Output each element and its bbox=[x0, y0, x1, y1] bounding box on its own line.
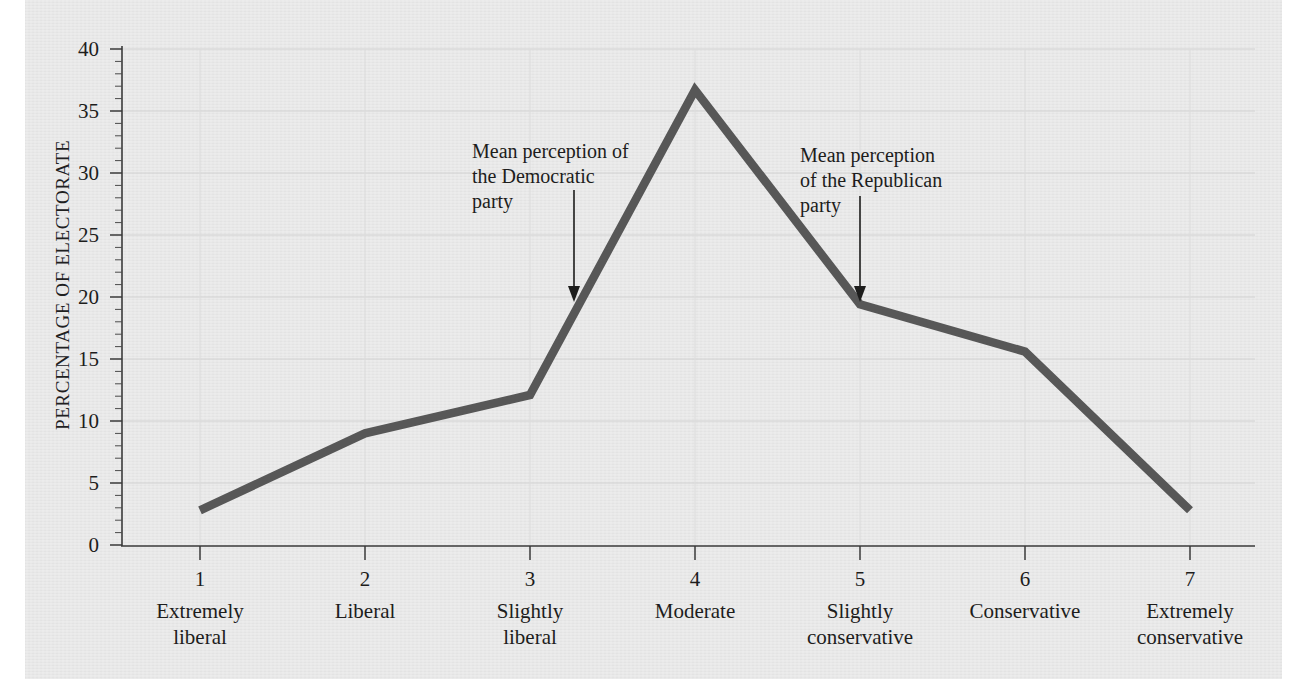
x-tick-number: 5 bbox=[775, 567, 945, 592]
x-tick-name-line1: Extremely bbox=[1095, 598, 1285, 624]
annotation-republican-line1: Mean perception bbox=[800, 143, 1015, 168]
x-tick-name-line2: conservative bbox=[765, 624, 955, 650]
y-tick-label: 30 bbox=[57, 161, 99, 186]
annotation-democratic: Mean perception of the Democratic party bbox=[472, 139, 687, 214]
y-tick-label: 25 bbox=[57, 223, 99, 248]
y-tick-label: 0 bbox=[57, 533, 99, 558]
x-axis-ticks bbox=[200, 546, 1190, 560]
x-tick-number: 2 bbox=[280, 567, 450, 592]
y-tick-label: 35 bbox=[57, 99, 99, 124]
gridlines bbox=[122, 49, 1255, 483]
x-tick-name-line1: Slightly bbox=[765, 598, 955, 624]
x-tick-name: Extremely conservative bbox=[1095, 598, 1285, 650]
x-tick-name-line1: Liberal bbox=[270, 598, 460, 624]
x-tick-name-line2: liberal bbox=[435, 624, 625, 650]
x-tick-name-line1: Moderate bbox=[600, 598, 790, 624]
x-tick-number: 4 bbox=[610, 567, 780, 592]
x-tick-number: 1 bbox=[115, 567, 285, 592]
annotation-republican-line2: of the Republican bbox=[800, 168, 1015, 193]
x-tick-name-line1: Conservative bbox=[930, 598, 1120, 624]
x-tick-number: 3 bbox=[445, 567, 615, 592]
x-tick-name-line2: conservative bbox=[1095, 624, 1285, 650]
annotation-democratic-line2: the Democratic bbox=[472, 164, 687, 189]
x-tick-name: Liberal bbox=[270, 598, 460, 624]
x-tick-name-line1: Extremely bbox=[105, 598, 295, 624]
x-tick-name: Extremely liberal bbox=[105, 598, 295, 650]
y-tick-label: 5 bbox=[57, 471, 99, 496]
y-tick-label: 15 bbox=[57, 347, 99, 372]
x-tick-number: 6 bbox=[940, 567, 1110, 592]
x-tick-name: Slightly conservative bbox=[765, 598, 955, 650]
x-tick-name-line2: liberal bbox=[105, 624, 295, 650]
x-tick-name: Conservative bbox=[930, 598, 1120, 624]
x-tick-name: Slightly liberal bbox=[435, 598, 625, 650]
annotation-republican-line3: party bbox=[800, 193, 1015, 218]
x-tick-name: Moderate bbox=[600, 598, 790, 624]
annotation-republican: Mean perception of the Republican party bbox=[800, 143, 1015, 218]
y-tick-label: 40 bbox=[57, 37, 99, 62]
chart-page: PERCENTAGE OF ELECTORATE 40 35 30 25 20 … bbox=[0, 0, 1307, 693]
x-tick-name-line1: Slightly bbox=[435, 598, 625, 624]
annotation-democratic-line1: Mean perception of bbox=[472, 139, 687, 164]
annotation-democratic-line3: party bbox=[472, 189, 687, 214]
x-tick-number: 7 bbox=[1105, 567, 1275, 592]
y-tick-label: 20 bbox=[57, 285, 99, 310]
y-tick-label: 10 bbox=[57, 409, 99, 434]
